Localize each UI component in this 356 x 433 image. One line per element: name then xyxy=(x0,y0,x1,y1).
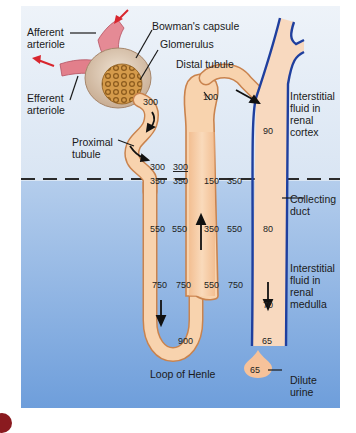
interstitial-cortex-label: Interstitial fluid in renal cortex xyxy=(290,90,335,138)
value-duct-80: 80 xyxy=(263,224,273,234)
value-asc-150: 150 xyxy=(204,176,219,186)
value-inter-550-right: 550 xyxy=(227,224,242,234)
efferent-arteriole-label: Efferent arteriole xyxy=(27,92,65,116)
interstitial-medulla-label: Interstitial fluid in renal medulla xyxy=(290,262,335,310)
proximal-tubule-label: Proximal tubule xyxy=(72,136,113,160)
value-asc-550: 550 xyxy=(204,280,219,290)
value-urine: 65 xyxy=(250,365,260,375)
value-cortex-interstitial: 300 xyxy=(173,162,188,172)
value-duct-65: 65 xyxy=(262,336,272,346)
value-proximal-start: 300 xyxy=(143,97,158,107)
value-desc-550: 550 xyxy=(150,224,165,234)
value-loop-bottom: 900 xyxy=(178,336,193,346)
value-duct-70: 70 xyxy=(263,300,273,310)
value-inter-750-left: 750 xyxy=(176,280,191,290)
value-inter-350-left: 350 xyxy=(173,176,188,186)
value-desc-350: 350 xyxy=(150,176,165,186)
collecting-duct-label: Collecting duct xyxy=(290,193,336,217)
value-inter-350-right: 350 xyxy=(227,176,242,186)
value-duct-90: 90 xyxy=(263,126,273,136)
bowmans-capsule-label: Bowman's capsule xyxy=(152,20,239,32)
afferent-arteriole-label: Afferent arteriole xyxy=(27,26,65,50)
loop-of-henle-label: Loop of Henle xyxy=(150,368,215,380)
dilute-urine-label: Dilute urine xyxy=(290,374,317,398)
value-inter-750-right: 750 xyxy=(228,280,243,290)
value-asc-350: 350 xyxy=(204,224,219,234)
glomerulus-label: Glomerulus xyxy=(160,38,214,50)
value-desc-750: 750 xyxy=(152,280,167,290)
value-distal: 100 xyxy=(203,92,218,102)
distal-tubule-label: Distal tubule xyxy=(176,58,234,70)
value-inter-550-left: 550 xyxy=(172,224,187,234)
value-proximal-end: 300 xyxy=(150,162,165,172)
